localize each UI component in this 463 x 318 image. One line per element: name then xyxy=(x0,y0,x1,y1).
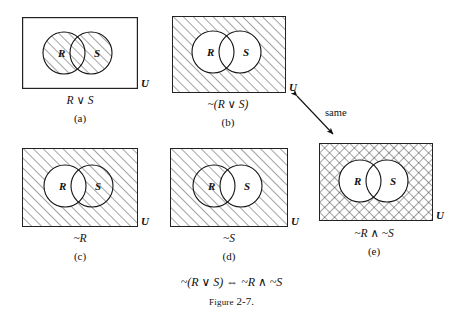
shaded-region-d xyxy=(171,149,287,226)
panel-letter-e: (e) xyxy=(315,246,433,257)
expression-label-a: R ∨ S xyxy=(22,95,138,107)
panel-letter-d: (d) xyxy=(170,251,288,262)
circle-label-r-c: R xyxy=(58,180,66,192)
universe-label-a: U xyxy=(141,78,149,89)
venn-panel-d: R S xyxy=(170,148,288,227)
venn-panel-a: R S xyxy=(22,17,138,89)
venn-diagram-d: R S xyxy=(170,148,288,227)
venn-panel-c: R S xyxy=(22,148,138,227)
circle-label-r-b: R xyxy=(206,46,214,58)
figure-2-7: R S U R ∨ S (a) xyxy=(0,0,463,318)
circle-label-r-a: R xyxy=(57,47,65,59)
panel-letter-b: (b) xyxy=(168,117,288,128)
universe-label-e: U xyxy=(436,210,444,221)
expression-label-e: ~R ∧ ~S xyxy=(315,228,433,240)
universe-label-c: U xyxy=(141,216,149,227)
expression-label-b: ~(R ∨ S) xyxy=(168,99,288,111)
circle-label-r-d: R xyxy=(207,180,215,192)
venn-diagram-a: R S xyxy=(22,17,138,89)
shaded-region-e xyxy=(320,144,432,220)
venn-panel-e: R S xyxy=(319,143,433,221)
expression-label-d: ~S xyxy=(170,233,288,245)
venn-diagram-b: R S xyxy=(172,16,286,93)
figure-caption: Figure 2-7. xyxy=(0,296,463,307)
expression-label-c: ~R xyxy=(22,233,138,245)
circle-label-r-e: R xyxy=(353,175,361,187)
panel-letter-a: (a) xyxy=(22,113,138,124)
circle-label-s-e: S xyxy=(390,175,396,187)
venn-diagram-c: R S xyxy=(22,148,138,227)
circle-label-s-a: S xyxy=(94,47,100,59)
figure-caption-label: Figure xyxy=(209,297,234,307)
circle-label-s-d: S xyxy=(244,180,250,192)
figure-identity-equation: ~(R ∨ S) ⇔ ~R ∧ ~S xyxy=(0,276,463,288)
universe-label-d: U xyxy=(291,216,299,227)
venn-diagram-e: R S xyxy=(319,143,433,221)
same-connector-label: same xyxy=(325,108,347,119)
shaded-region-b xyxy=(173,17,285,92)
shaded-region-c xyxy=(23,149,137,226)
figure-caption-number: 2-7. xyxy=(237,295,254,307)
circle-label-s-c: S xyxy=(95,180,101,192)
panel-letter-c: (c) xyxy=(22,251,138,262)
venn-panel-b: R S xyxy=(172,16,286,93)
circle-label-s-b: S xyxy=(243,46,249,58)
